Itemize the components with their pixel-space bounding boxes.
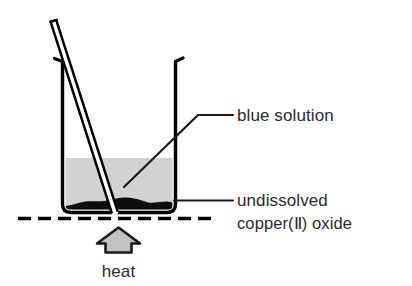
label-undissolved-line1: undissolved (237, 191, 328, 210)
label-copper-oxide-line2: copper(Ⅱ) oxide (237, 214, 352, 232)
chemistry-diagram: blue solution undissolved copper(Ⅱ) oxid… (0, 0, 412, 286)
heat-arrow (97, 228, 140, 253)
label-heat: heat (102, 262, 136, 281)
label-blue-solution: blue solution (237, 106, 334, 125)
diagram-canvas: blue solution undissolved copper(Ⅱ) oxid… (0, 0, 412, 286)
